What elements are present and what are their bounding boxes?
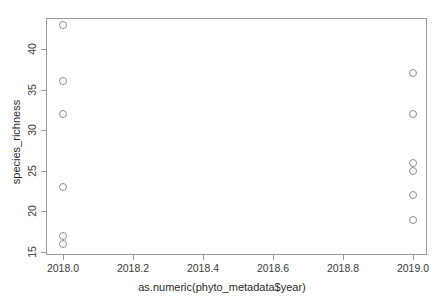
x-tick-mark xyxy=(63,255,64,260)
data-point[interactable] xyxy=(409,216,417,224)
x-tick-label: 2019.0 xyxy=(397,262,429,274)
y-tick-label: 35 xyxy=(26,84,38,96)
y-tick-mark xyxy=(41,49,46,50)
y-tick-label: 30 xyxy=(26,124,38,136)
y-tick-label: 15 xyxy=(26,246,38,258)
y-tick-mark xyxy=(41,252,46,253)
x-tick-mark xyxy=(273,255,274,260)
x-tick-mark xyxy=(343,255,344,260)
data-point[interactable] xyxy=(59,240,67,248)
y-tick-label: 25 xyxy=(26,165,38,177)
x-axis-label: as.numeric(phyto_metadata$year) xyxy=(0,281,444,293)
scatter-plot-figure: 2018.02018.22018.42018.62018.82019.0 152… xyxy=(0,0,444,305)
data-point[interactable] xyxy=(59,21,67,29)
x-tick-label: 2018.0 xyxy=(47,262,79,274)
y-tick-mark xyxy=(41,211,46,212)
x-tick-label: 2018.4 xyxy=(187,262,219,274)
y-tick-mark xyxy=(41,171,46,172)
y-tick-mark xyxy=(41,130,46,131)
y-axis-label: species_richness xyxy=(10,82,22,202)
data-point[interactable] xyxy=(59,183,67,191)
x-tick-mark xyxy=(203,255,204,260)
data-point[interactable] xyxy=(59,232,67,240)
x-tick-label: 2018.2 xyxy=(117,262,149,274)
x-tick-mark xyxy=(413,255,414,260)
y-tick-label: 40 xyxy=(26,43,38,55)
y-tick-label: 20 xyxy=(26,206,38,218)
data-point[interactable] xyxy=(59,110,67,118)
x-tick-label: 2018.6 xyxy=(257,262,289,274)
y-tick-mark xyxy=(41,90,46,91)
data-point[interactable] xyxy=(409,110,417,118)
x-tick-label: 2018.8 xyxy=(327,262,359,274)
x-tick-mark xyxy=(133,255,134,260)
data-point[interactable] xyxy=(409,167,417,175)
plot-frame xyxy=(46,18,427,255)
data-point[interactable] xyxy=(409,159,417,167)
